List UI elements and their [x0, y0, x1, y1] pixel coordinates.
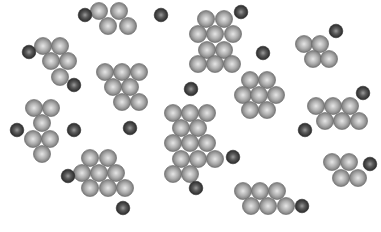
- cluster-particle: [350, 112, 367, 129]
- cluster-particle: [181, 104, 198, 121]
- cluster-particle: [96, 63, 113, 80]
- cluster-particle: [206, 150, 223, 167]
- cluster-particle: [234, 182, 251, 199]
- cluster-particle: [341, 97, 358, 114]
- free-particle: [67, 78, 81, 92]
- free-particle: [78, 8, 92, 22]
- cluster-particle: [224, 25, 241, 42]
- free-particle: [256, 46, 270, 60]
- free-particle: [329, 24, 343, 38]
- particle-cluster: [295, 35, 337, 67]
- cluster-particle: [81, 149, 98, 166]
- free-particle: [298, 123, 312, 137]
- cluster-particle: [130, 63, 147, 80]
- cluster-particle: [33, 145, 50, 162]
- cluster-particle: [51, 68, 68, 85]
- particle-cluster: [164, 104, 223, 182]
- cluster-particle: [242, 197, 259, 214]
- cluster-particle: [113, 63, 130, 80]
- particle-cluster: [34, 37, 76, 85]
- cluster-particle: [277, 197, 294, 214]
- cluster-particle: [51, 37, 68, 54]
- cluster-particle: [332, 169, 349, 186]
- cluster-particle: [333, 112, 350, 129]
- cluster-particle: [251, 182, 268, 199]
- cluster-particle: [99, 149, 116, 166]
- cluster-particle: [41, 130, 58, 147]
- cluster-particle: [119, 17, 136, 34]
- free-particle: [226, 150, 240, 164]
- cluster-particle: [323, 153, 340, 170]
- cluster-particle: [206, 25, 223, 42]
- particle-cluster: [307, 97, 367, 129]
- cluster-particle: [99, 17, 116, 34]
- free-particle: [184, 82, 198, 96]
- cluster-particle: [189, 55, 206, 72]
- particle-cluster: [90, 2, 136, 34]
- cluster-particle: [259, 197, 276, 214]
- cluster-particle: [304, 50, 321, 67]
- free-particle: [356, 86, 370, 100]
- cluster-particle: [90, 2, 107, 19]
- cluster-particle: [223, 55, 240, 72]
- cluster-particle: [25, 99, 42, 116]
- cluster-particle: [307, 97, 324, 114]
- particle-cluster: [189, 10, 241, 72]
- free-particle: [67, 123, 81, 137]
- cluster-particle: [104, 78, 121, 95]
- cluster-particle: [33, 114, 50, 131]
- cluster-particle: [197, 10, 214, 27]
- particle-cluster: [24, 99, 59, 162]
- free-particle: [154, 8, 168, 22]
- cluster-particle: [311, 35, 328, 52]
- particle-cluster: [96, 63, 147, 110]
- cluster-particle: [34, 37, 51, 54]
- free-particle: [189, 181, 203, 195]
- cluster-particle: [81, 179, 98, 196]
- cluster-particle: [164, 104, 181, 121]
- cluster-particle: [90, 164, 107, 181]
- cluster-particle: [206, 55, 223, 72]
- cluster-particle: [42, 99, 59, 116]
- free-particle: [363, 157, 377, 171]
- cluster-particle: [113, 93, 130, 110]
- cluster-particle: [172, 119, 189, 136]
- cluster-particle: [198, 104, 215, 121]
- particle-cluster: [234, 182, 294, 214]
- cluster-particle: [130, 93, 147, 110]
- particle-cluster: [73, 149, 133, 196]
- cluster-particle: [349, 169, 366, 186]
- cluster-particle: [234, 86, 251, 103]
- free-particle: [234, 5, 248, 19]
- cluster-particle: [116, 179, 133, 196]
- cluster-particle: [107, 164, 124, 181]
- free-particle: [295, 199, 309, 213]
- cluster-particle: [110, 2, 127, 19]
- cluster-particle: [164, 165, 181, 182]
- cluster-particle: [181, 134, 198, 151]
- cluster-particle: [267, 86, 284, 103]
- cluster-particle: [172, 150, 189, 167]
- cluster-particle: [268, 182, 285, 199]
- cluster-particle: [24, 130, 41, 147]
- cluster-particle: [241, 101, 258, 118]
- cluster-particle: [189, 119, 206, 136]
- cluster-particle: [258, 71, 275, 88]
- particle-cluster: [323, 153, 366, 186]
- cluster-particle: [320, 50, 337, 67]
- cluster-particle: [164, 134, 181, 151]
- cluster-particle: [59, 52, 76, 69]
- cluster-particle: [181, 165, 198, 182]
- cluster-particle: [215, 10, 232, 27]
- free-particle: [116, 201, 130, 215]
- cluster-particle: [73, 164, 90, 181]
- cluster-particle: [316, 112, 333, 129]
- cluster-particle: [121, 78, 138, 95]
- cluster-particle: [241, 71, 258, 88]
- free-particle: [61, 169, 75, 183]
- cluster-particle: [258, 101, 275, 118]
- free-particle: [123, 121, 137, 135]
- cluster-particle: [324, 97, 341, 114]
- particle-diagram: [0, 0, 381, 232]
- cluster-particle: [198, 134, 215, 151]
